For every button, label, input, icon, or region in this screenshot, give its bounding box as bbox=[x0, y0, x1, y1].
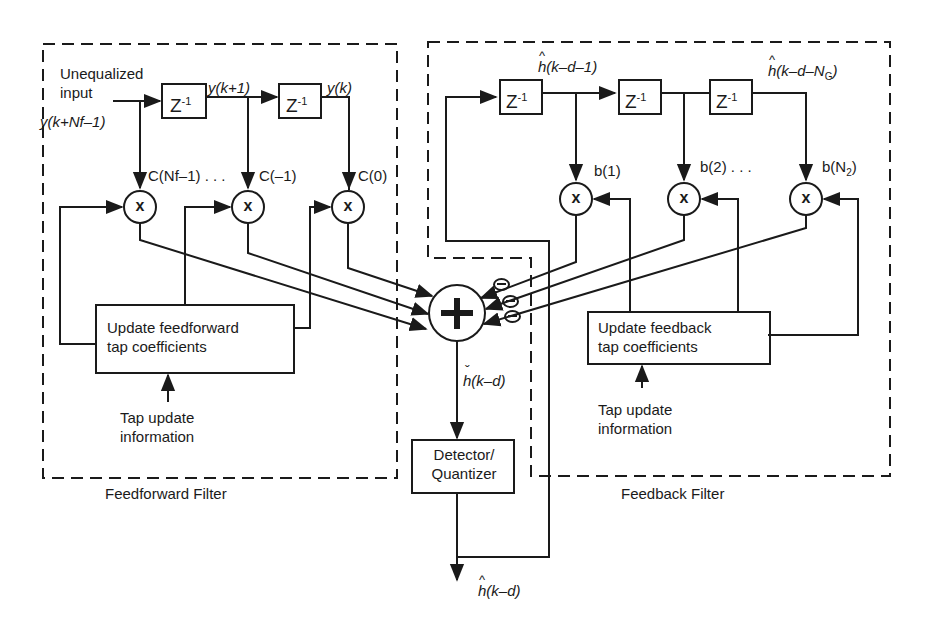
ff-update-box-text: Update feedforward tap coefficients bbox=[107, 318, 239, 356]
ff-coefficient-3: C(0) bbox=[358, 167, 387, 184]
output-label: h(k–d) bbox=[478, 582, 521, 599]
ff-delay-label-1: Z-1 bbox=[170, 91, 191, 116]
fb-multiply-icon-3: x bbox=[794, 186, 818, 210]
feedback-filter-caption: Feedback Filter bbox=[621, 485, 724, 502]
fb-delay-label-2: Z-1 bbox=[625, 87, 646, 112]
fb-delay-label-3: Z-1 bbox=[716, 87, 737, 112]
minus-icon-3 bbox=[504, 310, 521, 323]
feedforward-region-border bbox=[43, 44, 397, 478]
fb-update-box-text: Update feedback tap coefficients bbox=[598, 318, 711, 356]
ff-multiply-icon-2: x bbox=[236, 194, 260, 218]
ff-tap-signal-2: y(k) bbox=[327, 79, 352, 96]
minus-icon-1 bbox=[493, 278, 510, 291]
fb-signal-last: h(k–d–NG) bbox=[768, 62, 837, 85]
fb-signal-first: h(k–d–1) bbox=[538, 58, 597, 75]
fb-coefficient-2: b(2) . . . bbox=[700, 158, 752, 175]
ff-delay-label-2: Z-1 bbox=[286, 91, 307, 116]
ff-multiply-icon-1: x bbox=[128, 194, 152, 218]
fb-delay-label-1: Z-1 bbox=[506, 87, 527, 112]
fb-multiply-icon-2: x bbox=[672, 186, 696, 210]
ff-coefficient-2: C(–1) bbox=[259, 167, 297, 184]
ff-coefficient-1: C(Nf–1) . . . bbox=[148, 167, 226, 184]
ff-tap-signal-1: y(k+1) bbox=[208, 79, 250, 96]
summer-output-label: h(k–d) bbox=[463, 372, 506, 389]
ff-multiply-icon-3: x bbox=[336, 194, 360, 218]
fb-tap-update-info: Tap update information bbox=[598, 400, 672, 438]
ff-tap-update-info: Tap update information bbox=[120, 408, 194, 446]
fb-multiply-icon-1: x bbox=[564, 186, 588, 210]
minus-icon-2 bbox=[502, 295, 519, 308]
fb-coefficient-1: b(1) bbox=[594, 162, 621, 179]
feedforward-filter-caption: Feedforward Filter bbox=[105, 485, 227, 502]
plus-icon bbox=[441, 298, 473, 329]
detector-text: Detector/ Quantizer bbox=[422, 445, 506, 483]
fb-coefficient-3: b(N2) bbox=[822, 158, 857, 181]
input-label: Unequalized input bbox=[60, 65, 143, 101]
input-signal-label: y(k+Nf–1) bbox=[40, 113, 105, 130]
